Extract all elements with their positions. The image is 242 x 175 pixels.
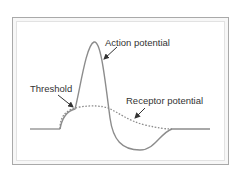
action-potential-arrow [104,47,117,59]
receptor-potential-arrow [135,108,145,118]
action-potential-label: Action potential [105,38,170,48]
receptor-potential-curve [60,106,172,129]
threshold-arrow [58,95,73,107]
threshold-label: Threshold [30,84,72,94]
receptor-potential-label: Receptor potential [126,96,203,106]
